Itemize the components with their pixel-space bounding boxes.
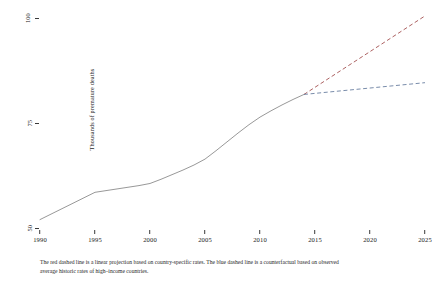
series-line-observed [40,94,304,219]
x-axis-tick-label: 2005 [198,236,212,243]
x-axis-tick-mark [260,230,261,234]
x-axis-tick-mark [205,230,206,234]
x-axis-tick-mark [370,230,371,234]
x-axis-tick-label: 2020 [363,236,377,243]
y-axis-tick-label: 100 [25,13,31,23]
x-axis-tick: 2025 [418,228,432,243]
x-axis-tick-mark [95,230,96,234]
x-axis-tick: 2015 [308,228,322,243]
x-axis-tick-mark [150,230,151,234]
x-axis-tick: 1995 [88,228,102,243]
chart-lines [40,18,425,228]
x-axis-tick: 1990 [33,228,47,243]
y-axis-tick-mark [35,18,39,19]
chart-figure: Thousands of premature deaths 100 75 50 … [0,0,440,284]
chart-caption: The red dashed line is a linear projecti… [40,258,410,275]
x-axis-tick-label: 2015 [308,236,322,243]
caption-line-1: The red dashed line is a linear projecti… [40,258,410,267]
y-axis-tick-label: 75 [27,120,33,126]
x-axis-tick-label: 1990 [33,236,47,243]
x-axis-tick-mark [315,230,316,234]
x-axis-tick-label: 2025 [418,236,432,243]
y-axis-tick-mark [35,123,39,124]
x-axis-tick: 2010 [253,228,267,243]
x-axis-tick-mark [40,230,41,234]
plot-area: Thousands of premature deaths 100 75 50 … [40,18,425,228]
x-axis-tick: 2020 [363,228,377,243]
y-axis-tick-label: 50 [27,225,33,231]
x-axis-tick: 2000 [143,228,157,243]
x-axis-tick-label: 1995 [88,236,102,243]
x-axis-tick-label: 2010 [253,236,267,243]
series-line-linear-projection [304,16,425,95]
x-axis-tick: 2005 [198,228,212,243]
caption-line-2: average historic rates of high–income co… [40,267,410,276]
series-line-counterfactual [304,83,425,95]
x-axis-tick-mark [425,230,426,234]
x-axis-tick-label: 2000 [143,236,157,243]
